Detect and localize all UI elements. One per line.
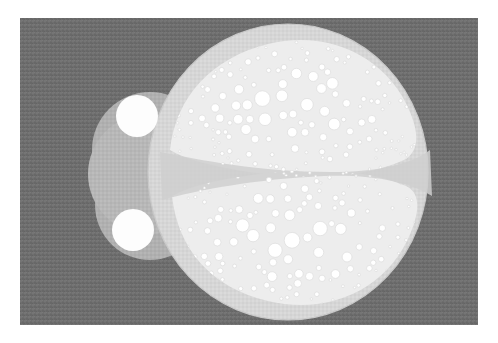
bubble [314,292,319,297]
bubble [203,200,207,204]
bubble [237,159,240,162]
bubble [390,139,393,142]
bubble [266,177,271,182]
bubble [296,168,298,170]
bubble [246,151,252,157]
bubble [308,72,318,82]
bubble [389,245,392,248]
bubble [259,113,272,126]
bubble [179,150,181,152]
bubble [215,71,217,73]
bubble [289,110,297,118]
bubble [262,270,267,275]
bubble [264,282,270,288]
bubble [212,74,217,79]
bubble [391,207,394,210]
bubble [328,118,340,130]
bubble [229,209,233,213]
bubble [358,140,362,144]
bubble [220,151,224,155]
bubble [367,265,373,271]
bubble [356,244,362,250]
bubble [375,157,377,159]
bubble [215,253,223,261]
bubble [222,162,224,164]
bubble [324,69,330,75]
bubble [304,162,307,165]
bubble [304,58,308,62]
bubble [194,195,197,198]
bubble [226,134,231,139]
bubble [266,136,272,142]
bubble [228,61,232,65]
bubble [285,296,289,300]
bubble [347,144,353,150]
bubble [376,81,381,86]
bubble [254,210,258,214]
bubble [268,243,282,257]
bubble [347,185,349,187]
bubble [345,171,347,173]
bubble [216,130,221,135]
bubble [274,165,278,169]
bubble [281,167,285,171]
bubble [372,65,376,69]
bubble [281,64,287,70]
bubble [231,101,240,110]
bubble [291,145,299,153]
bubble [305,151,308,154]
bubble [319,275,325,281]
bubble [233,264,237,268]
bubble [310,298,312,300]
bubble [287,285,292,290]
bubble [295,41,298,44]
bubble [230,238,238,246]
bubble [331,270,340,279]
bubble [291,68,301,78]
bubble [327,156,333,162]
bubble [357,284,361,288]
bubble [246,115,254,123]
bubble [266,195,274,203]
specimen-illustration [0,0,498,343]
bubble [194,221,197,224]
bubble [347,128,354,135]
bubble [376,234,382,240]
bubble [301,98,314,111]
bubble [189,136,191,138]
bubble [226,193,228,195]
bubble [335,223,346,234]
bubble [366,136,372,142]
bubble [243,185,246,188]
bubble [313,221,327,235]
bubble [316,265,321,270]
bubble [334,144,338,148]
bubble [301,129,309,137]
bubble [410,199,412,201]
bubble [333,206,337,210]
bubble [214,214,222,222]
bubble [320,134,327,141]
eye-top [116,95,158,137]
bubble [295,269,304,278]
bubble [221,278,225,282]
bubble [341,117,346,122]
bubble [358,198,362,202]
bubble [326,47,330,51]
bubble [317,84,327,94]
bubble [247,212,253,218]
bubble [332,299,334,301]
bubble [279,111,287,119]
bubble [308,172,311,175]
bubble [201,85,204,88]
bubble [178,128,181,131]
bubble [220,261,225,266]
bubble [245,59,251,65]
bubble [278,80,287,89]
bubble [204,122,210,128]
bubble [234,85,243,94]
bubble [375,178,377,180]
bubble [413,143,415,145]
bubble [320,182,322,184]
bubble [343,99,351,107]
